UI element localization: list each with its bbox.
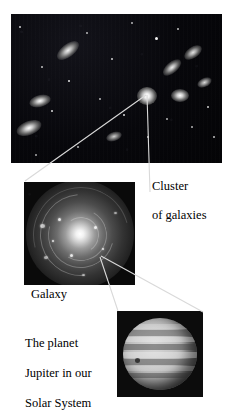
star xyxy=(131,22,133,24)
cloud-band xyxy=(123,330,197,336)
star xyxy=(147,136,149,138)
caption-cluster-line1: Cluster xyxy=(152,179,207,194)
star xyxy=(191,126,193,128)
caption-jupiter-line3: Solar System xyxy=(25,396,92,411)
hii-region xyxy=(44,256,48,259)
caption-jupiter-line2: Jupiter in our xyxy=(25,366,92,381)
star xyxy=(166,118,168,120)
star xyxy=(99,98,101,100)
elliptical-galaxy xyxy=(171,89,189,102)
star xyxy=(177,28,179,30)
hii-region xyxy=(40,224,45,228)
jupiter-disk xyxy=(123,318,197,390)
caption-cluster-line2: of galaxies xyxy=(152,208,207,223)
star xyxy=(19,26,21,28)
cloud-band xyxy=(123,337,197,342)
hii-region xyxy=(114,212,117,214)
hii-region xyxy=(58,218,61,221)
hii-region xyxy=(94,226,97,229)
caption-galaxy: Galaxy xyxy=(31,287,67,302)
star xyxy=(35,154,37,156)
hii-region xyxy=(82,274,85,276)
star xyxy=(68,80,70,82)
caption-cluster: Cluster of galaxies xyxy=(152,164,207,237)
spiral-galaxy-image xyxy=(24,182,135,285)
star xyxy=(51,110,53,112)
hii-region xyxy=(52,240,54,242)
star xyxy=(86,32,88,34)
star xyxy=(155,37,158,40)
cloud-band xyxy=(123,324,197,329)
star xyxy=(41,66,43,68)
hii-region xyxy=(102,248,104,250)
star xyxy=(207,106,209,108)
cloud-band xyxy=(123,366,197,371)
star xyxy=(111,58,113,60)
cloud-band xyxy=(123,352,197,358)
scanline-texture xyxy=(11,14,222,163)
dark-spot xyxy=(135,358,140,362)
caption-jupiter-line1: The planet xyxy=(25,336,92,351)
jupiter-image xyxy=(117,311,203,397)
anchor-galaxy xyxy=(137,87,157,105)
cloud-band xyxy=(123,373,197,379)
star xyxy=(213,136,215,138)
galaxy-cluster-image xyxy=(11,14,222,163)
caption-jupiter: The planet Jupiter in our Solar System xyxy=(25,321,92,414)
star xyxy=(123,114,125,116)
star xyxy=(77,146,79,148)
cloud-band xyxy=(123,344,197,350)
hii-region xyxy=(70,254,73,257)
